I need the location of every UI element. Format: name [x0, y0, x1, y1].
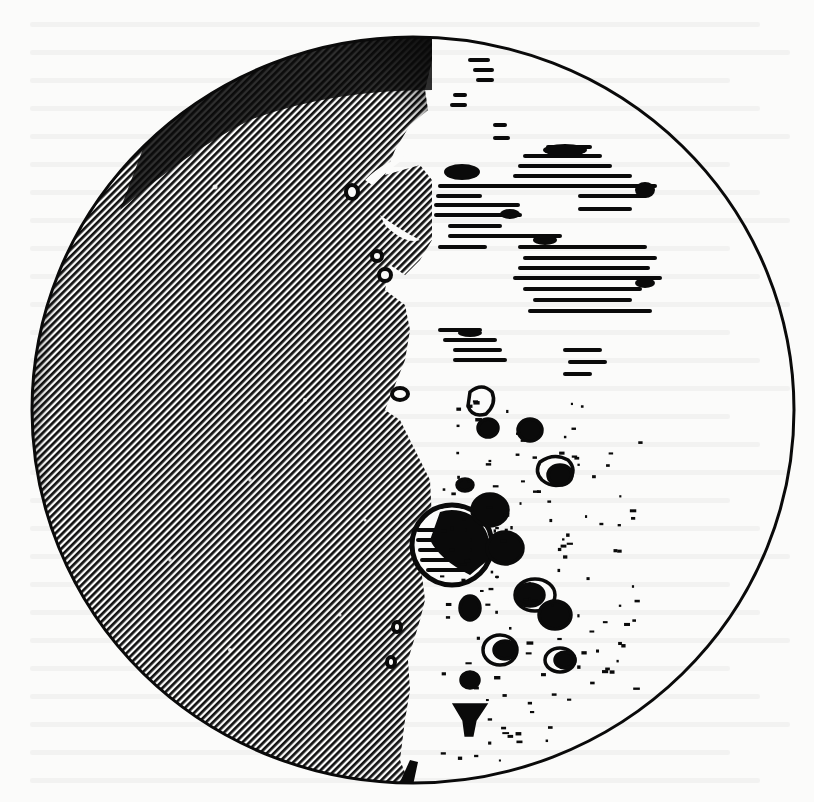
moon-engraving — [0, 0, 814, 802]
shadow-region — [0, 0, 432, 802]
lit-region-maria — [436, 60, 660, 374]
lit-region-craters — [400, 387, 643, 790]
